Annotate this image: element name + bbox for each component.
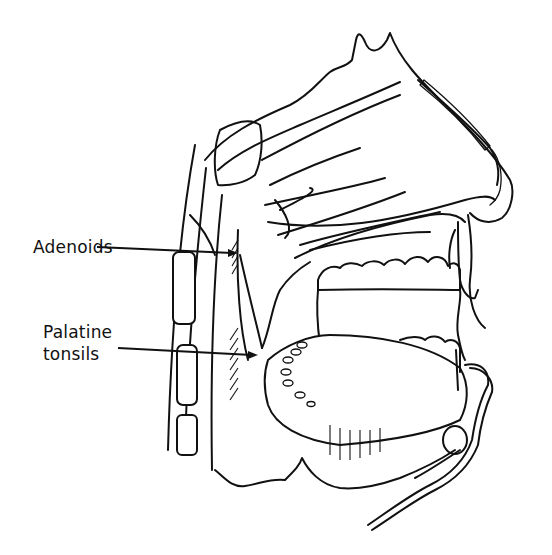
label-adenoids: Adenoids [33,237,113,258]
cervical-spine [168,145,222,470]
nose-outline [205,33,512,222]
illustration [0,0,552,555]
nasal-turbinates [262,95,495,238]
label-tonsils: tonsils [43,344,99,365]
label-palatine: Palatine [43,322,112,343]
tongue [265,335,467,445]
upper-teeth [318,257,460,290]
anatomy-diagram: Adenoids Palatine tonsils [0,0,552,555]
